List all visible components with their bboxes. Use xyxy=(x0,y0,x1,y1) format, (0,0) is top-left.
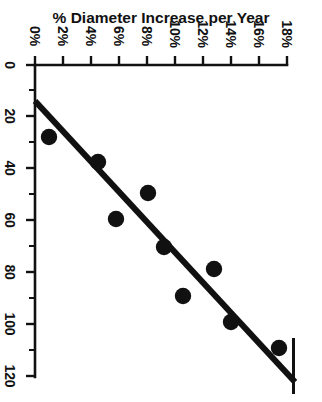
data-point xyxy=(156,239,172,255)
data-point xyxy=(108,211,124,227)
data-point xyxy=(271,340,287,356)
data-point xyxy=(206,261,222,277)
scale-bar xyxy=(292,338,295,394)
data-point xyxy=(90,154,106,170)
plot-canvas xyxy=(0,0,322,402)
rotated-plot-wrapper: 0 20 40 60 80 100 120 0% 2% 4% 6% 8% 10%… xyxy=(0,0,322,402)
data-point xyxy=(41,129,57,145)
scatter-plot: 0 20 40 60 80 100 120 0% 2% 4% 6% 8% 10%… xyxy=(0,0,322,402)
data-point xyxy=(140,185,156,201)
y-axis-title: % Diameter Increase per Year xyxy=(53,9,270,27)
y-axis-major-ticks xyxy=(35,56,287,65)
data-points xyxy=(41,129,287,356)
data-point xyxy=(175,288,191,304)
x-axis-major-ticks xyxy=(26,65,35,376)
figure-root: 0 20 40 60 80 100 120 0% 2% 4% 6% 8% 10%… xyxy=(0,0,322,402)
data-point xyxy=(223,314,239,330)
